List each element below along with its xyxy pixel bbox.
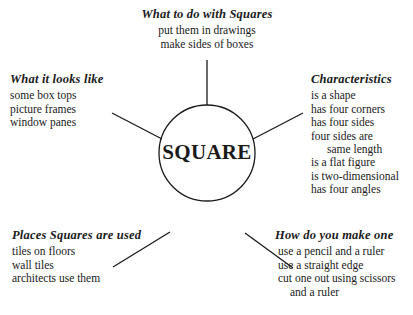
branch-upper-left: What it looks like some box tops picture… — [10, 73, 104, 130]
branch-item: has four angles — [311, 183, 399, 196]
branch-lower-left: Places Squares are used tiles on floors … — [12, 229, 141, 286]
branch-item: use a straight edge — [275, 259, 396, 272]
branch-item: has four corners — [311, 103, 399, 116]
branch-heading: What to do with Squares — [120, 8, 294, 21]
branch-item: tiles on floors — [12, 245, 141, 258]
branch-item: some box tops — [10, 89, 104, 102]
connector-upper-right — [253, 113, 303, 139]
branch-item: put them in drawings — [120, 24, 294, 37]
branch-heading: What it looks like — [10, 73, 104, 86]
branch-heading: Places Squares are used — [12, 229, 141, 242]
branch-item: is two-dimensional — [311, 170, 399, 183]
branch-item: is a flat figure — [311, 156, 399, 169]
branch-top: What to do with Squares put them in draw… — [120, 8, 294, 51]
branch-item: cut one out using scissors — [275, 272, 396, 285]
branch-lower-right: How do you make one use a pencil and a r… — [275, 229, 396, 299]
branch-item: architects use them — [12, 272, 141, 285]
branch-item: use a pencil and a ruler — [275, 245, 396, 258]
connector-upper-left — [112, 113, 162, 139]
branch-item: has four sides — [311, 116, 399, 129]
branch-heading: How do you make one — [275, 229, 396, 242]
branch-item: picture frames — [10, 103, 104, 116]
branch-item: four sides are — [311, 130, 399, 143]
branch-item: wall tiles — [12, 259, 141, 272]
branch-item: window panes — [10, 116, 104, 129]
branch-item: and a ruler — [275, 286, 396, 299]
branch-upper-right: Characteristics is a shape has four corn… — [311, 73, 399, 197]
branch-item: same length — [311, 143, 399, 156]
branch-item: make sides of boxes — [120, 38, 294, 51]
center-label: SQUARE — [159, 140, 255, 165]
branch-item: is a shape — [311, 89, 399, 102]
branch-heading: Characteristics — [311, 73, 399, 86]
